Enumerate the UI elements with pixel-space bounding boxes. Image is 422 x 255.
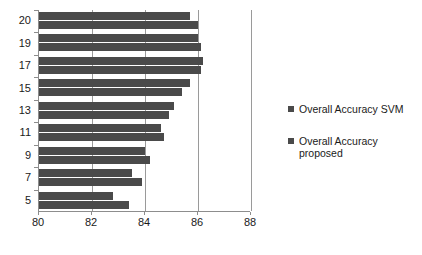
y-axis: 201917151311975 [0, 10, 38, 212]
bar-9-series-0 [39, 147, 145, 155]
y-tick-7 [0, 167, 38, 168]
legend-label-1: Overall Accuracy proposed [299, 135, 378, 159]
bar-group-9 [39, 147, 250, 169]
y-tick-label-15: 15 [19, 82, 31, 95]
y-tick-mark [34, 55, 38, 56]
y-tick-label-11: 11 [20, 126, 31, 139]
x-tick-label-84: 84 [138, 216, 150, 229]
bar-5-series-1 [39, 201, 129, 209]
x-tick-mark [197, 212, 198, 215]
bars-layer [39, 10, 250, 211]
bar-group-15 [39, 79, 250, 101]
x-tick-label-82: 82 [85, 216, 97, 229]
y-tick-label-7: 7 [25, 171, 31, 184]
x-tick-mark [144, 212, 145, 215]
bar-group-5 [39, 192, 250, 214]
y-tick-9 [0, 145, 38, 146]
y-tick-label-5: 5 [25, 194, 31, 207]
y-tick-mark [34, 190, 38, 191]
y-tick-label-20: 20 [19, 14, 31, 27]
x-tick-label-88: 88 [244, 216, 256, 229]
y-tick-mark [34, 122, 38, 123]
bar-11-series-1 [39, 133, 164, 141]
x-axis: 8082848688 [38, 212, 251, 234]
bar-17-series-0 [39, 57, 203, 65]
x-tick-mark [91, 212, 92, 215]
bar-15-series-0 [39, 79, 190, 87]
plot-area [38, 10, 250, 212]
bar-13-series-0 [39, 102, 174, 110]
bar-15-series-1 [39, 88, 182, 96]
y-tick-5 [0, 190, 38, 191]
bar-17-series-1 [39, 66, 201, 74]
bar-chart: 201917151311975 8082848688 Overall Accur… [0, 0, 422, 255]
y-tick-15 [0, 77, 38, 78]
bar-group-17 [39, 57, 250, 79]
x-tick-label-86: 86 [191, 216, 203, 229]
bar-group-7 [39, 169, 250, 191]
y-tick-20 [0, 10, 38, 11]
y-tick-mark [34, 167, 38, 168]
bar-group-13 [39, 102, 250, 124]
y-tick-mark [34, 100, 38, 101]
bar-7-series-1 [39, 178, 142, 186]
x-tick-label-80: 80 [32, 216, 44, 229]
x-tick-mark [38, 212, 39, 215]
y-tick-mark [34, 77, 38, 78]
legend-entry-1[interactable]: Overall Accuracy proposed [288, 135, 378, 159]
y-tick-label-17: 17 [19, 59, 31, 72]
bar-9-series-1 [39, 156, 150, 164]
y-tick-label-19: 19 [19, 37, 31, 50]
bar-20-series-0 [39, 12, 190, 20]
gridline-88 [251, 10, 252, 211]
y-tick-mark [34, 10, 38, 11]
bar-13-series-1 [39, 111, 169, 119]
bar-19-series-1 [39, 43, 201, 51]
legend-entry-0[interactable]: Overall Accuracy SVM [288, 103, 403, 115]
y-tick-17 [0, 55, 38, 56]
y-tick-label-13: 13 [19, 104, 31, 117]
y-tick-label-9: 9 [25, 149, 31, 162]
bar-19-series-0 [39, 34, 198, 42]
y-tick-19 [0, 32, 38, 33]
bar-group-19 [39, 34, 250, 56]
bar-group-20 [39, 12, 250, 34]
legend-swatch-icon [288, 106, 294, 112]
legend-swatch-icon [288, 138, 294, 144]
bar-11-series-0 [39, 124, 161, 132]
bar-7-series-0 [39, 169, 132, 177]
legend-label-0: Overall Accuracy SVM [299, 103, 403, 115]
bar-5-series-0 [39, 192, 113, 200]
y-tick-11 [0, 122, 38, 123]
y-tick-mark [34, 145, 38, 146]
bar-group-11 [39, 124, 250, 146]
y-tick-mark [34, 32, 38, 33]
x-tick-mark [250, 212, 251, 215]
bar-20-series-1 [39, 21, 198, 29]
y-tick-13 [0, 100, 38, 101]
